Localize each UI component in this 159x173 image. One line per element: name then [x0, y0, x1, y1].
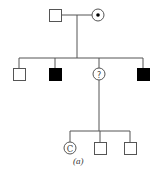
pedigree-diagram: ? C: [0, 0, 159, 173]
male-affected-II-4: [138, 69, 150, 81]
male-unaffected-III-2: [95, 143, 107, 155]
male-unaffected-III-3: [125, 143, 137, 155]
male-affected-II-2: [50, 69, 62, 81]
figure-caption: (a): [73, 156, 84, 166]
carrier-dot-icon: [96, 13, 100, 17]
consultand-mark: C: [67, 144, 74, 154]
unknown-mark: ?: [97, 71, 101, 80]
male-unaffected-II-1: [14, 69, 26, 81]
male-unaffected-I-1: [50, 10, 62, 22]
